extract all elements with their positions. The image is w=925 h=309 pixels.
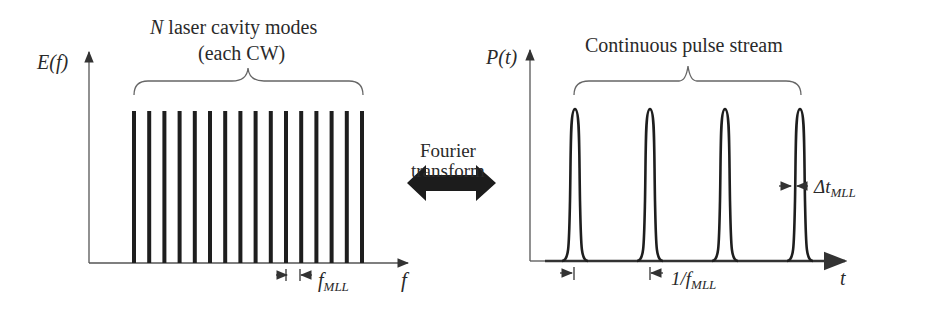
mode-spacing-label: fMLL — [318, 270, 349, 293]
pulse-train — [562, 109, 813, 261]
mll-subscript: MLL — [691, 277, 716, 292]
pulse — [712, 109, 738, 261]
mode-spacing-marker — [276, 269, 312, 281]
transform-label: transform — [411, 161, 485, 180]
pulse — [562, 109, 588, 261]
cavity-mode-bar — [223, 111, 227, 263]
cavity-mode-bar — [193, 111, 197, 263]
cavity-mode-bars — [132, 111, 364, 263]
right-title: Continuous pulse stream — [585, 35, 783, 55]
cavity-mode-bar — [360, 111, 364, 263]
right-y-axis-label: P(t) — [486, 47, 517, 67]
fourier-label: Fourier — [420, 141, 476, 160]
mode-locked-laser-diagram: E(f) N laser cavity modes (each CW) f fM… — [0, 0, 925, 309]
left-y-axis-label: E(f) — [37, 52, 68, 72]
cavity-mode-bar — [254, 111, 258, 263]
left-x-axis-label: f — [401, 270, 407, 291]
left-title-line1: N laser cavity modes — [150, 17, 317, 37]
right-brace-icon — [574, 66, 801, 95]
cavity-mode-bar — [299, 111, 303, 263]
left-title-line2: (each CW) — [198, 43, 285, 63]
mll-subscript: MLL — [830, 185, 855, 200]
cavity-mode-bar — [284, 111, 288, 263]
period-symbol: 1/f — [671, 268, 691, 289]
cavity-mode-bar — [162, 111, 166, 263]
cavity-mode-bar — [178, 111, 182, 263]
cavity-mode-bar — [147, 111, 151, 263]
period-label: 1/fMLL — [671, 269, 716, 291]
cavity-mode-bar — [330, 111, 334, 263]
right-x-axis-label: t — [840, 268, 846, 288]
pulse — [637, 109, 663, 261]
cavity-mode-bar — [132, 111, 136, 263]
delta-t-symbol: Δt — [814, 176, 830, 197]
left-brace-icon — [134, 68, 363, 95]
pulse — [787, 109, 813, 261]
cavity-mode-bar — [269, 111, 273, 263]
mll-subscript: MLL — [324, 279, 349, 294]
cavity-mode-bar — [208, 111, 212, 263]
pulse-width-label: ΔtMLL — [814, 177, 856, 199]
period-marker — [560, 267, 663, 280]
cavity-mode-bar — [345, 111, 349, 263]
n-symbol: N — [150, 16, 163, 38]
cavity-mode-bar — [314, 111, 318, 263]
left-title-text: laser cavity modes — [163, 16, 317, 38]
cavity-mode-bar — [238, 111, 242, 263]
